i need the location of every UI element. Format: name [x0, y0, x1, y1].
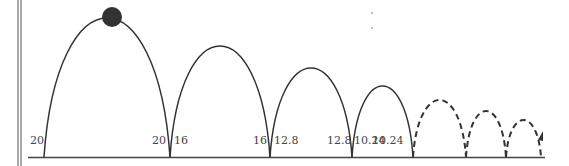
height-labels: 2020161612.812.810.2410.24 — [30, 134, 404, 147]
ball — [102, 7, 122, 27]
height-label: 10.24 — [372, 134, 404, 147]
height-label: 16 — [174, 134, 188, 147]
bounce-arc-5 — [413, 100, 466, 157]
height-label: 12.8 — [274, 134, 299, 147]
dot — [371, 12, 373, 14]
bounce-arc-6 — [466, 111, 506, 157]
height-label: 16 — [253, 134, 267, 147]
height-label: 12.8 — [327, 134, 352, 147]
bounce-arc-7 — [506, 120, 541, 157]
height-label: 20 — [30, 134, 44, 147]
height-label: 20 — [152, 134, 166, 147]
bouncing-ball-diagram: 2020161612.812.810.2410.24 — [0, 0, 569, 166]
arrowhead-icon — [538, 131, 543, 141]
dot — [371, 27, 373, 29]
